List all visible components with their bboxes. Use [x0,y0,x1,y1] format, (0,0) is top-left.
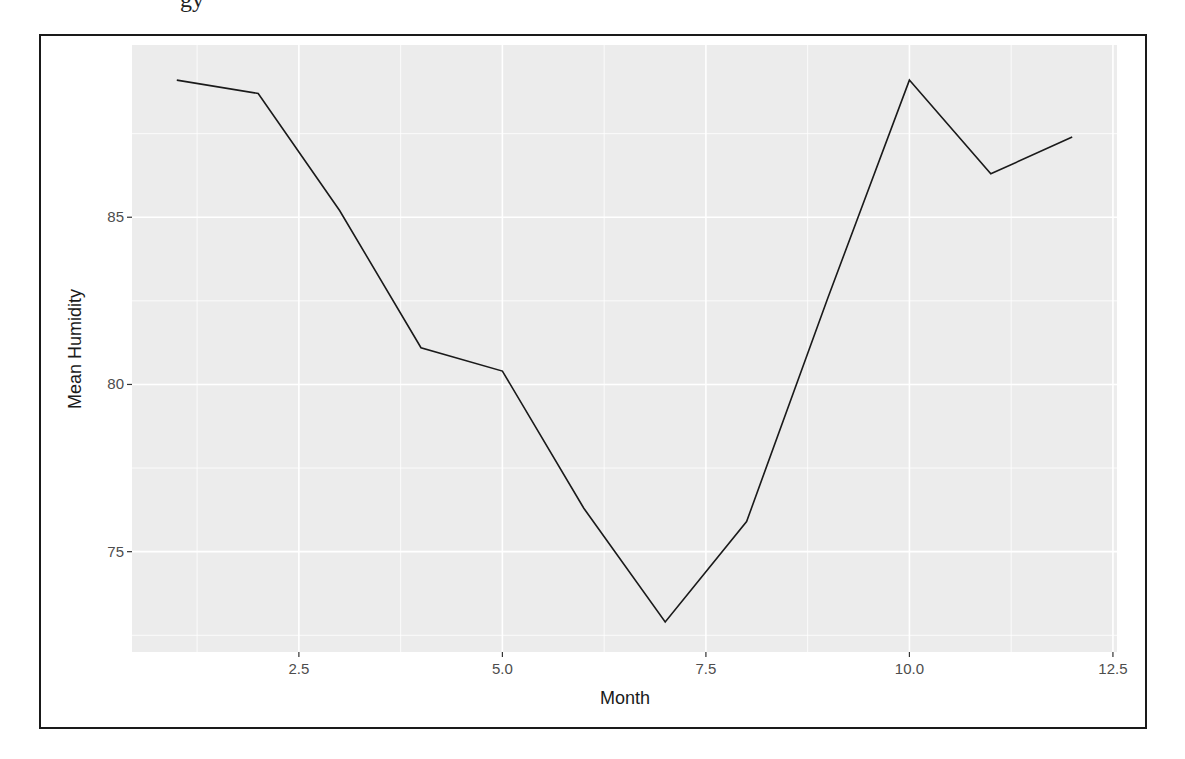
x-axis-ticks: 2.55.07.510.012.5 [288,652,1127,677]
plot-panel [132,45,1117,652]
x-tick-label: 12.5 [1098,660,1127,677]
y-axis-title: Mean Humidity [65,289,85,409]
y-tick-label: 85 [107,208,124,225]
y-tick-label: 80 [107,375,124,392]
x-axis-title: Month [600,688,650,708]
x-tick-label: 5.0 [492,660,513,677]
line-chart: 2.55.07.510.012.5 758085 Month Mean Humi… [0,0,1185,759]
y-axis-ticks: 758085 [107,208,132,559]
x-tick-label: 7.5 [695,660,716,677]
x-tick-label: 2.5 [288,660,309,677]
y-tick-label: 75 [107,543,124,560]
x-tick-label: 10.0 [895,660,924,677]
